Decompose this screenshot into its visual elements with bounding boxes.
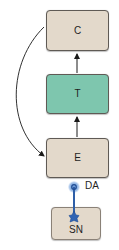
da-terminal-glow bbox=[68, 181, 80, 193]
node-t: T bbox=[46, 74, 109, 114]
circuit-diagram: C T E SN bbox=[0, 0, 119, 250]
node-c-label: C bbox=[74, 26, 81, 36]
node-e: E bbox=[46, 138, 109, 178]
da-terminal bbox=[72, 185, 77, 190]
node-sn-label: SN bbox=[69, 225, 83, 235]
arrow-c-to-e-curved bbox=[16, 27, 44, 156]
node-t-label: T bbox=[74, 89, 80, 99]
node-sn: SN bbox=[51, 207, 101, 240]
node-e-label: E bbox=[74, 153, 81, 163]
da-label: DA bbox=[85, 181, 99, 191]
node-c: C bbox=[46, 10, 109, 51]
